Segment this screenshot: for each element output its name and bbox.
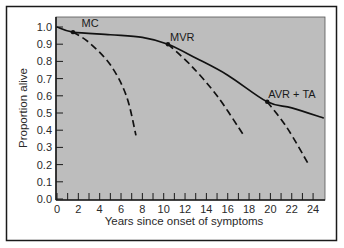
y-tick-label: 0.0 [37,193,52,205]
y-axis-title: Proportion alive [17,68,29,148]
x-tick-label: 22 [286,203,298,215]
branch-point-marker [71,30,75,34]
x-tick-label: 2 [75,203,81,215]
x-tick-label: 0 [54,203,60,215]
y-tick-label: 0.5 [37,107,52,119]
x-tick-label: 24 [307,203,319,215]
y-tick-label: 0.6 [37,90,52,102]
x-tick-label: 6 [118,203,124,215]
y-tick-label: 0.9 [37,38,52,50]
x-axis-title: Years since onset of symptoms [105,215,264,227]
survival-chart: 0246810121416182022240.00.10.20.30.40.50… [0,0,344,248]
x-tick-label: 14 [200,203,212,215]
y-tick-label: 0.2 [37,159,52,171]
plot-area [56,17,325,200]
x-tick-label: 20 [264,203,276,215]
y-tick-label: 0.7 [37,73,52,85]
x-tick-label: 8 [139,203,145,215]
y-tick-label: 0.3 [37,141,52,153]
y-tick-label: 0.1 [37,176,52,188]
y-tick-label: 1.0 [37,21,52,33]
y-tick-label: 0.4 [37,124,52,136]
curve-annotation: MC [82,17,99,29]
x-tick-label: 16 [222,203,234,215]
curve-annotation: MVR [170,31,195,43]
curve-annotation: AVR + TA [268,88,316,100]
x-tick-label: 10 [158,203,170,215]
x-tick-label: 12 [179,203,191,215]
y-tick-label: 0.8 [37,55,52,67]
x-tick-label: 18 [243,203,255,215]
branch-point-marker [265,100,269,104]
x-tick-label: 4 [97,203,103,215]
